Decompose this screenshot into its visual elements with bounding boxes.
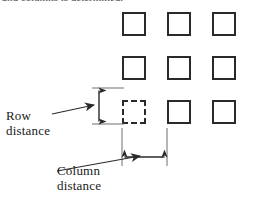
row-distance-label-line2: distance (6, 123, 50, 138)
grid-square-r2c2 (167, 56, 191, 80)
cut-off-caption-text: and columns is determined. (2, 0, 123, 3)
grid-square-r1c1 (122, 12, 146, 36)
grid-square-r3c3 (212, 100, 236, 124)
row-distance-leader-line (52, 105, 94, 114)
row-column-distance-figure: and columns is determined. (0, 0, 257, 200)
row-distance-label: Row distance (6, 108, 50, 138)
grid-square-r3c1-highlighted (122, 100, 146, 124)
cut-off-caption: and columns is determined. (0, 0, 257, 7)
grid-square-r2c3 (212, 56, 236, 80)
column-distance-label-line2: distance (57, 178, 101, 193)
grid-square-r1c2 (167, 12, 191, 36)
grid-square-r2c1 (122, 56, 146, 80)
column-distance-label-line1: Column (57, 163, 100, 178)
column-distance-label: Column distance (57, 163, 101, 193)
row-distance-label-line1: Row (6, 108, 31, 123)
grid-square-r3c2 (167, 100, 191, 124)
grid-square-r1c3 (212, 12, 236, 36)
